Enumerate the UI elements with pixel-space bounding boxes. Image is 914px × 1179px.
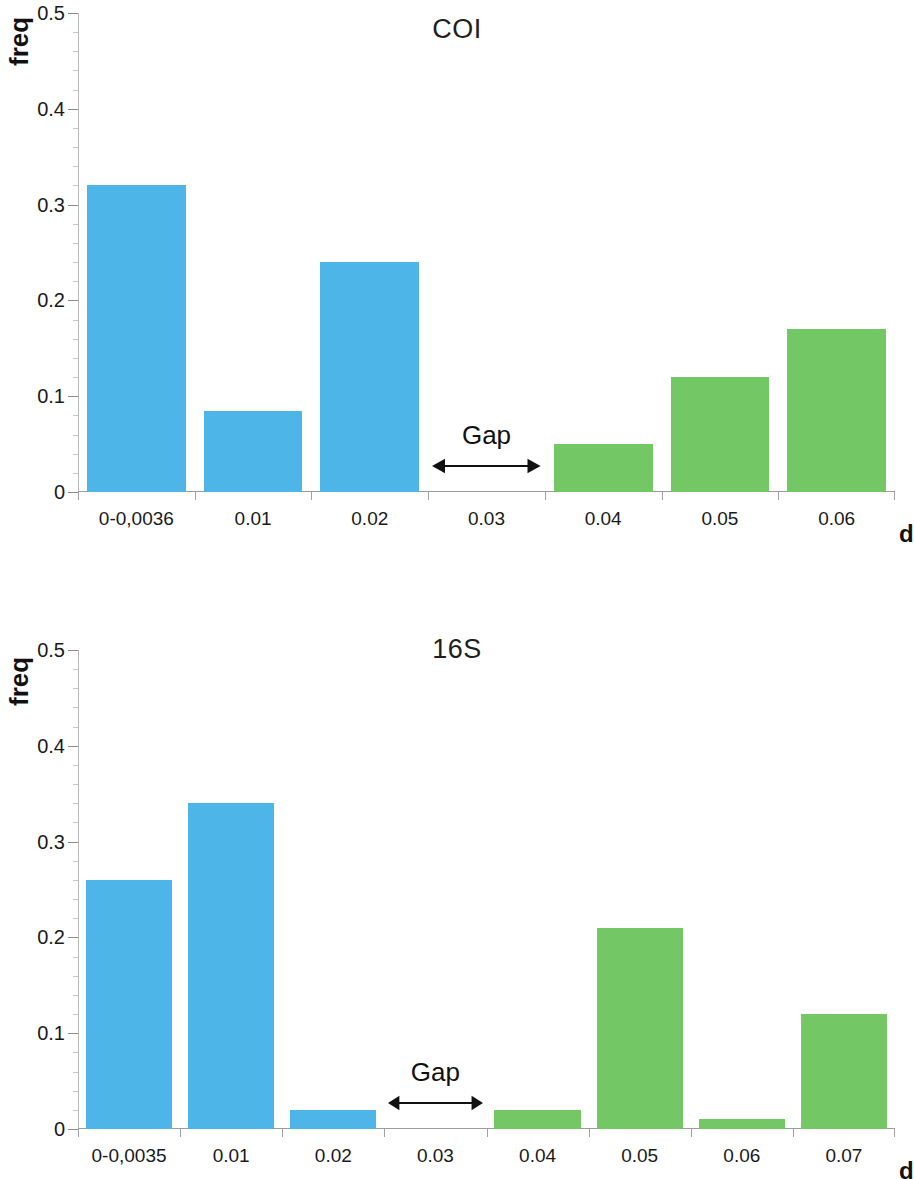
gap-double-arrow-icon: [388, 1092, 483, 1114]
x-axis-tick-label: 0.06: [723, 1145, 760, 1167]
chart-panel-coi: COI freq 00.10.20.30.40.50-0,00360.010.0…: [0, 0, 914, 580]
y-axis-tick: [68, 13, 78, 14]
x-axis-tick: [282, 1129, 283, 1137]
x-axis-tick-label: 0.03: [468, 508, 505, 530]
bar: [320, 262, 419, 492]
y-axis-minor-tick: [73, 435, 78, 436]
gap-label: Gap: [432, 420, 541, 451]
y-axis-minor-tick: [73, 1091, 78, 1092]
y-axis-minor-tick: [73, 51, 78, 52]
y-axis-tick-label: 0.2: [37, 289, 65, 312]
y-axis-tick-label: 0.5: [37, 639, 65, 662]
y-axis-minor-tick: [73, 128, 78, 129]
y-axis-tick: [68, 746, 78, 747]
x-axis-tick: [793, 1129, 794, 1137]
y-axis-minor-tick: [73, 166, 78, 167]
y-axis-minor-tick: [73, 377, 78, 378]
bar: [801, 1014, 887, 1129]
y-axis-minor-tick: [73, 262, 78, 263]
x-axis-tick: [778, 492, 779, 500]
y-axis-minor-tick: [73, 899, 78, 900]
y-axis-tick-label: 0: [54, 1118, 65, 1141]
x-axis-tick: [691, 1129, 692, 1137]
bar: [87, 185, 186, 492]
x-axis-tick-label: 0.04: [519, 1145, 556, 1167]
bar: [671, 377, 770, 492]
y-axis-minor-tick: [73, 185, 78, 186]
y-axis-minor-tick: [73, 784, 78, 785]
y-axis-minor-tick: [73, 1014, 78, 1015]
y-axis-tick: [68, 842, 78, 843]
x-axis-tick: [78, 492, 79, 500]
y-axis-minor-tick: [73, 707, 78, 708]
x-axis-label-16s: d: [899, 1157, 914, 1179]
x-axis-tick-label: 0.01: [235, 508, 272, 530]
y-axis-minor-tick: [73, 90, 78, 91]
x-axis-tick: [428, 492, 429, 500]
y-axis-minor-tick: [73, 957, 78, 958]
y-axis-line: [78, 13, 79, 492]
y-axis-minor-tick: [73, 803, 78, 804]
x-axis-tick: [894, 492, 895, 500]
x-axis-tick-label: 0-0,0036: [99, 508, 174, 530]
y-axis-tick: [68, 300, 78, 301]
x-axis-tick: [384, 1129, 385, 1137]
x-axis-tick-label: 0.04: [585, 508, 622, 530]
y-axis-tick: [68, 650, 78, 651]
x-axis-tick: [180, 1129, 181, 1137]
x-axis-tick: [662, 492, 663, 500]
bar: [86, 880, 172, 1129]
y-axis-minor-tick: [73, 880, 78, 881]
x-axis-tick-label: 0.05: [701, 508, 738, 530]
y-axis-minor-tick: [73, 147, 78, 148]
x-axis-tick: [78, 1129, 79, 1137]
y-axis-line: [78, 650, 79, 1129]
y-axis-tick-label: 0.2: [37, 926, 65, 949]
y-axis-tick: [68, 1033, 78, 1034]
y-axis-tick-label: 0: [54, 481, 65, 504]
y-axis-minor-tick: [73, 358, 78, 359]
bar: [554, 444, 653, 492]
chart-panel-16s: 16S freq 00.10.20.30.40.50-0,00350.010.0…: [0, 620, 914, 1179]
y-axis-tick-label: 0.3: [37, 830, 65, 853]
y-axis-minor-tick: [73, 1052, 78, 1053]
x-axis-tick-label: 0.01: [213, 1145, 250, 1167]
y-axis-tick-label: 0.5: [37, 2, 65, 25]
x-axis-tick-label: 0.03: [417, 1145, 454, 1167]
y-axis-minor-tick: [73, 243, 78, 244]
y-axis-minor-tick: [73, 822, 78, 823]
y-axis-minor-tick: [73, 976, 78, 977]
y-axis-minor-tick: [73, 32, 78, 33]
bar: [787, 329, 886, 492]
bar: [188, 803, 274, 1129]
bar: [597, 928, 683, 1129]
y-axis-minor-tick: [73, 70, 78, 71]
y-axis-tick-label: 0.4: [37, 97, 65, 120]
x-axis-tick-label: 0-0,0035: [92, 1145, 167, 1167]
figure-root: { "figure": { "colors": { "blue": "#4EB5…: [0, 0, 914, 1179]
bar: [494, 1110, 580, 1129]
y-axis-tick: [68, 937, 78, 938]
x-axis-tick: [311, 492, 312, 500]
x-axis-tick-label: 0.06: [818, 508, 855, 530]
y-axis-minor-tick: [73, 224, 78, 225]
x-axis-tick: [487, 1129, 488, 1137]
y-axis-minor-tick: [73, 473, 78, 474]
y-axis-minor-tick: [73, 669, 78, 670]
x-axis-tick: [894, 1129, 895, 1137]
bar: [204, 411, 303, 492]
y-axis-minor-tick: [73, 1072, 78, 1073]
x-axis-tick-label: 0.07: [825, 1145, 862, 1167]
y-axis-minor-tick: [73, 320, 78, 321]
y-axis-minor-tick: [73, 861, 78, 862]
y-axis-minor-tick: [73, 918, 78, 919]
bar: [699, 1119, 785, 1129]
y-axis-minor-tick: [73, 688, 78, 689]
gap-annotation: Gap: [432, 407, 541, 477]
x-axis-label-coi: d: [899, 520, 914, 548]
x-axis-tick-label: 0.05: [621, 1145, 658, 1167]
y-axis-minor-tick: [73, 995, 78, 996]
y-axis-label-coi: freq: [4, 17, 35, 66]
x-axis-tick-label: 0.02: [351, 508, 388, 530]
y-axis-tick-label: 0.1: [37, 385, 65, 408]
